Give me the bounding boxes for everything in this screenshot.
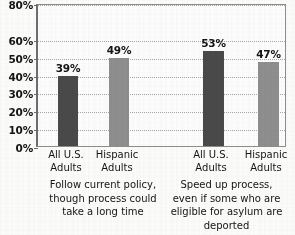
bar-value-label: 49%	[107, 44, 132, 56]
y-axis-tick	[34, 130, 38, 131]
y-axis-tick	[34, 5, 38, 6]
plot-area: 80%60%50%40%30%20%10%0% 39%49%53%47%	[36, 4, 286, 147]
gridline	[38, 5, 285, 6]
y-axis-tick-label: 80%	[8, 0, 33, 11]
y-axis-tick-label: 60%	[8, 35, 33, 47]
y-axis-tick-label: 0%	[16, 142, 33, 154]
y-axis-tick-label: 20%	[8, 106, 33, 118]
x-axis-label-line-2: Adults	[48, 162, 84, 175]
y-axis-tick	[34, 59, 38, 60]
x-axis-label-line-2: Adults	[245, 162, 288, 175]
caption-left-line-1: Follow current policy,	[27, 178, 179, 192]
x-axis-label-line-1: All U.S.	[193, 149, 229, 160]
y-axis-tick-label: 30%	[8, 88, 33, 100]
bar-chart: 80%60%50%40%30%20%10%0% 39%49%53%47% All…	[0, 0, 295, 235]
bar-value-label: 53%	[201, 37, 226, 49]
caption-left-line-3: take a long time	[27, 205, 179, 219]
x-axis-label-line-1: All U.S.	[48, 149, 84, 160]
group-caption-left: Follow current policy, though process co…	[27, 178, 179, 219]
bar-value-label: 47%	[256, 48, 281, 60]
x-axis-label-line-1: Hispanic	[96, 149, 139, 160]
x-axis-label-line-2: Adults	[193, 162, 229, 175]
y-axis-tick	[34, 41, 38, 42]
bar: 47%	[258, 62, 279, 146]
y-axis-tick-label: 10%	[8, 124, 33, 136]
caption-right-line-1: Speed up process,	[158, 178, 295, 192]
caption-left-line-2: though process could	[27, 192, 179, 206]
x-axis-label: All U.S.Adults	[193, 149, 229, 174]
bar: 39%	[58, 76, 78, 146]
bar: 49%	[109, 58, 129, 146]
caption-right-line-2: even if some who are	[158, 192, 295, 206]
group-caption-right: Speed up process, even if some who are e…	[158, 178, 295, 232]
y-axis-tick	[34, 94, 38, 95]
x-axis-label: HispanicAdults	[96, 149, 139, 174]
bar: 53%	[203, 51, 224, 146]
x-axis-label: HispanicAdults	[245, 149, 288, 174]
x-axis-label-line-2: Adults	[96, 162, 139, 175]
x-axis-label: All U.S.Adults	[48, 149, 84, 174]
caption-right-line-4: deported	[158, 219, 295, 233]
x-axis-label-line-1: Hispanic	[245, 149, 288, 160]
y-axis-tick	[34, 112, 38, 113]
gridline	[38, 59, 285, 60]
y-axis-tick-label: 50%	[8, 53, 33, 65]
bar-value-label: 39%	[56, 62, 81, 74]
gridline	[38, 41, 285, 42]
y-axis-tick	[34, 77, 38, 78]
y-axis-tick-label: 40%	[8, 71, 33, 83]
caption-right-line-3: eligible for asylum are	[158, 205, 295, 219]
group-captions: Follow current policy, though process co…	[0, 178, 295, 235]
